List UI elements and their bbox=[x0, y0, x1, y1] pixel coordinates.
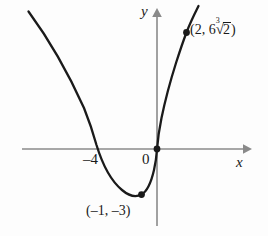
x-axis-arrowhead bbox=[243, 144, 252, 154]
y-axis-label: y bbox=[141, 4, 148, 19]
radicand: 2 bbox=[223, 22, 231, 37]
point-origin bbox=[154, 146, 161, 153]
point-upper-right bbox=[183, 29, 190, 36]
upper-point-x-value: 2 bbox=[195, 22, 202, 37]
upper-point-coefficient: 6 bbox=[209, 22, 216, 37]
upper-point-close-paren: ) bbox=[231, 22, 236, 37]
cube-root-expression: 3√2 bbox=[216, 22, 231, 37]
x-intercept-label: –4 bbox=[83, 152, 98, 167]
point-local-minimum bbox=[138, 191, 145, 198]
origin-label: 0 bbox=[142, 152, 150, 167]
x-axis bbox=[22, 144, 252, 154]
function-curve bbox=[29, 6, 199, 196]
local-minimum-label: (–1, –3) bbox=[86, 204, 130, 218]
x-axis-label: x bbox=[236, 155, 243, 170]
radical-index: 3 bbox=[216, 17, 220, 25]
y-axis bbox=[152, 8, 162, 226]
upper-point-label: (2, 63√2) bbox=[190, 22, 236, 37]
y-axis-arrowhead bbox=[152, 8, 162, 17]
graph-figure: x y –4 0 (–1, –3) (2, 63√2) bbox=[0, 0, 268, 236]
upper-point-comma: , bbox=[202, 22, 209, 37]
